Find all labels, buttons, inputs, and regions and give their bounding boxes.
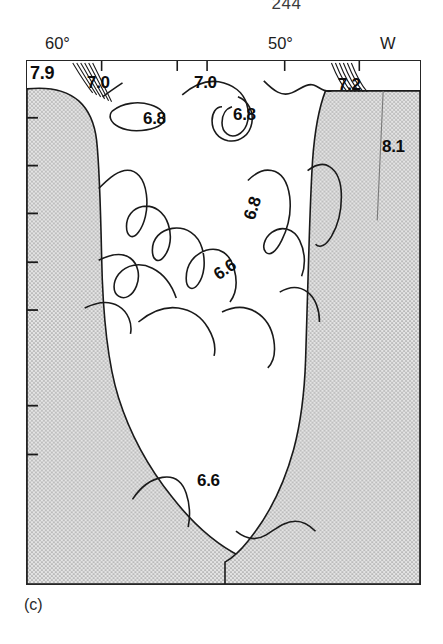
contour-value-7-0-center: 7.0 xyxy=(194,73,217,93)
axis-ticks-top xyxy=(102,61,360,71)
contour-plot-svg xyxy=(27,61,420,584)
contour-6-6-main xyxy=(85,255,320,368)
page-number: 244 xyxy=(0,0,443,14)
contour-value-7-0-left: 7.0 xyxy=(87,73,110,93)
axis-tick-label-60: 60° xyxy=(45,34,70,53)
contour-value-7-2: 7.2 xyxy=(338,75,361,95)
contour-value-8-1: 8.1 xyxy=(382,137,405,157)
contour-value-7-9: 7.9 xyxy=(30,63,54,84)
figure-caption: (c) xyxy=(24,596,43,614)
contour-value-6-8-left: 6.8 xyxy=(143,109,166,129)
contour-value-6-8-center: 6.8 xyxy=(233,105,256,125)
contour-plot-frame: 7.9 7.0 7.0 7.2 8.1 6.8 6.8 6.8 6.6 6.6 xyxy=(26,60,421,585)
page-number-value: 244 xyxy=(272,0,302,13)
mantle-block-left xyxy=(27,88,240,584)
contour-value-6-6-keel: 6.6 xyxy=(197,471,220,491)
axis-tick-label-west: W xyxy=(380,34,396,53)
axis-tick-label-50: 50° xyxy=(268,34,293,53)
